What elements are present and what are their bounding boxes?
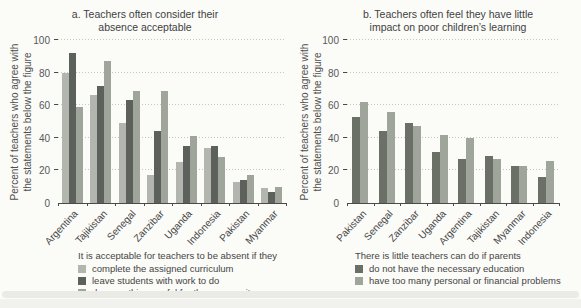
chart-title-line: absence acceptable xyxy=(10,21,280,34)
bar-group: Indonesia xyxy=(533,40,560,203)
legend-item: leave students with work to do xyxy=(78,276,277,285)
bar xyxy=(133,91,140,203)
bar xyxy=(204,148,211,203)
bar xyxy=(183,146,190,203)
legend-swatch xyxy=(78,277,86,285)
legend-item: do not have the necessary education xyxy=(355,264,561,273)
bar-group: Indonesia xyxy=(201,40,230,203)
bar xyxy=(360,102,368,203)
y-axis-tick-label: 40 xyxy=(39,132,50,143)
bar xyxy=(458,159,466,203)
y-axis-tick-label: 80 xyxy=(328,67,339,78)
legend-item-label: do not have the necessary education xyxy=(369,264,524,273)
chart-title-a: a. Teachers often consider theirabsence … xyxy=(10,8,280,33)
bar xyxy=(519,166,527,203)
legend-b: There is little teachers can do if paren… xyxy=(355,250,561,285)
bar xyxy=(379,131,387,203)
bar-group: Pakistan xyxy=(347,40,374,203)
bar-group: Zanzibar xyxy=(144,40,173,203)
x-axis-tick xyxy=(453,203,454,206)
bar-group: Uganda xyxy=(172,40,201,203)
chart-title-line: b. Teachers often feel they have little xyxy=(320,8,576,21)
bar xyxy=(546,161,554,203)
chart-panel-b: b. Teachers often feel they have littlei… xyxy=(290,0,581,308)
x-axis-tick xyxy=(172,203,173,206)
y-axis-tick-label: 40 xyxy=(328,132,339,143)
legend-title: There is little teachers can do if paren… xyxy=(355,250,561,261)
y-axis-label-line: the statements below the figure xyxy=(311,37,324,207)
bar xyxy=(69,53,76,203)
bar xyxy=(440,135,448,203)
chart-title-b: b. Teachers often feel they have littlei… xyxy=(320,8,576,33)
x-axis-tick xyxy=(559,203,560,206)
x-axis-tick xyxy=(115,203,116,206)
bar xyxy=(432,152,440,203)
chart-panel-a: a. Teachers often consider theirabsence … xyxy=(0,0,290,308)
legend-swatch xyxy=(355,277,363,285)
bar-groups: ArgentinaTajikistanSenegalZanzibarUganda… xyxy=(58,40,286,203)
bar-group: Uganda xyxy=(427,40,454,203)
y-axis-tick-label: 100 xyxy=(33,35,50,46)
bar xyxy=(147,175,154,203)
x-axis-tick xyxy=(347,203,348,206)
figure-bottom-band xyxy=(2,291,579,298)
bar xyxy=(511,166,519,203)
y-axis-label-line: the statements below the figure xyxy=(21,37,34,207)
footnote-area: Note: Percentages are based on the share… xyxy=(0,299,581,308)
y-axis-tick-label: 60 xyxy=(39,100,50,111)
bar xyxy=(466,138,474,203)
legend-item: have too many personal or financial prob… xyxy=(355,276,561,285)
bar xyxy=(240,180,247,203)
bar-group: Senegal xyxy=(374,40,401,203)
bar-group: Argentina xyxy=(453,40,480,203)
bar xyxy=(176,162,183,203)
y-axis-label-a: Percent of teachers who agree withthe st… xyxy=(8,37,34,207)
legend-item-label: complete the assigned curriculum xyxy=(92,264,234,273)
bar xyxy=(119,123,126,203)
bar xyxy=(76,107,83,203)
bar xyxy=(126,100,133,203)
bar xyxy=(275,187,282,203)
bar-group: Zanzibar xyxy=(400,40,427,203)
x-axis-tick xyxy=(229,203,230,206)
bar xyxy=(352,117,360,203)
x-axis-tick xyxy=(286,203,287,206)
x-axis-tick xyxy=(258,203,259,206)
bar xyxy=(405,123,413,203)
y-axis-tick-label: 0 xyxy=(333,198,339,209)
x-axis-tick xyxy=(533,203,534,206)
y-axis-tick-label: 20 xyxy=(39,165,50,176)
chart-title-line: a. Teachers often consider their xyxy=(10,8,280,21)
x-axis-tick xyxy=(87,203,88,206)
legend-swatch xyxy=(78,265,86,273)
figure-container: a. Teachers often consider theirabsence … xyxy=(0,0,581,308)
y-axis-tick-label: 0 xyxy=(44,198,50,209)
x-axis-tick xyxy=(58,203,59,206)
legend-item: complete the assigned curriculum xyxy=(78,264,277,273)
y-axis-label-b: Percent of teachers who agree withthe st… xyxy=(298,37,324,207)
chart-title-line: impact on poor children’s learning xyxy=(320,21,576,34)
bar xyxy=(387,112,395,203)
bar-group: Myanmar xyxy=(506,40,533,203)
bar xyxy=(190,136,197,203)
bar xyxy=(154,131,161,203)
bar xyxy=(211,146,218,203)
bar-group: Tajikistan xyxy=(480,40,507,203)
bar xyxy=(413,126,421,203)
x-axis-tick xyxy=(374,203,375,206)
plot-area-b: 020406080100PakistanSenegalZanzibarUgand… xyxy=(347,40,559,204)
y-axis-tick-label: 100 xyxy=(322,35,339,46)
y-axis-tick-label: 80 xyxy=(39,67,50,78)
legend-swatch xyxy=(355,265,363,273)
y-axis-tick-label: 60 xyxy=(328,100,339,111)
bar xyxy=(90,95,97,203)
x-axis-tick xyxy=(144,203,145,206)
bar xyxy=(261,188,268,203)
x-axis-tick xyxy=(201,203,202,206)
bar xyxy=(538,177,546,203)
x-axis-tick xyxy=(400,203,401,206)
bar xyxy=(161,91,168,203)
legend-item-label: have too many personal or financial prob… xyxy=(369,276,561,285)
bar xyxy=(247,175,254,203)
bar-group: Pakistan xyxy=(229,40,258,203)
